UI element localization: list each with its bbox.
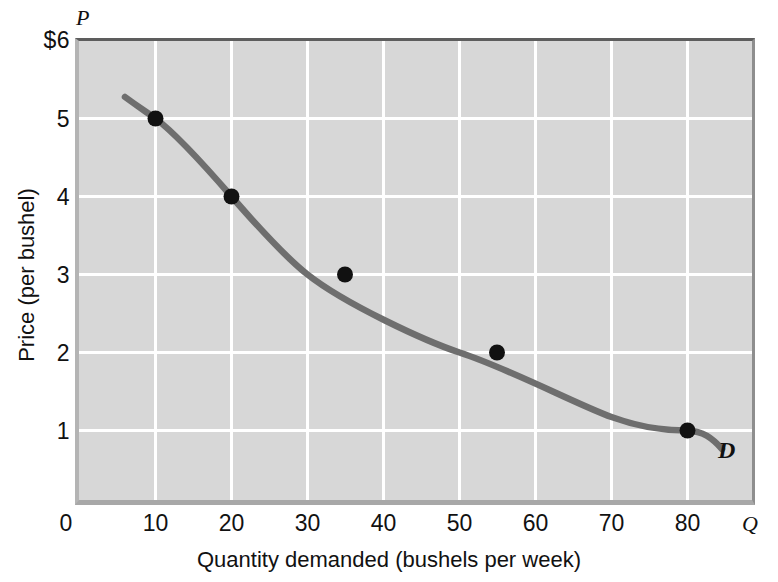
demand-curve-chart: D P Q $6 5 4 3 2 1 0 10 20 30 40 50 60 7… [0,0,778,582]
price-axis-symbol: P [76,5,89,31]
x-tick-label: 50 [430,512,490,535]
quantity-axis-symbol: Q [742,511,758,537]
x-tick-label: 10 [126,512,186,535]
data-point-marker [680,423,696,439]
gridlines-horizontal [79,119,752,431]
x-tick-label: 80 [658,512,718,535]
x-tick-label: 60 [506,512,566,535]
data-point-marker [148,111,164,127]
y-axis-title: Price (per bushel) [14,45,40,505]
data-point-marker [224,189,240,205]
demand-curve-label: D [718,437,735,464]
x-tick-label: 0 [36,512,96,535]
x-tick-label: 30 [278,512,338,535]
data-point-marker [337,267,353,283]
x-axis-title: Quantity demanded (bushels per week) [0,547,778,573]
x-tick-label: 40 [354,512,414,535]
x-tick-label: 70 [582,512,642,535]
data-point-marker [489,345,505,361]
x-tick-label: 20 [202,512,262,535]
plot-canvas [0,0,778,582]
